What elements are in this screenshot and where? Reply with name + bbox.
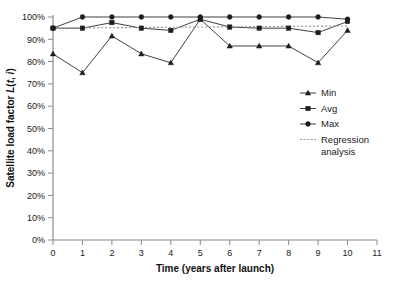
x-tick-label: 1 <box>80 248 85 258</box>
y-tick-label: 80% <box>27 57 45 67</box>
data-point-marker <box>198 15 203 20</box>
data-point-marker <box>286 26 290 30</box>
y-tick-label: 10% <box>27 213 45 223</box>
data-point-marker <box>51 26 56 31</box>
data-point-marker <box>257 15 262 20</box>
chart-figure: 0%10%20%30%40%50%60%70%80%90%100% 012345… <box>0 0 396 290</box>
x-tick-label: 4 <box>168 248 173 258</box>
x-tick-label: 5 <box>198 248 203 258</box>
y-tick-label: 40% <box>27 146 45 156</box>
y-tick-label: 70% <box>27 79 45 89</box>
y-axis-title: Satellite load factor L(t, i) <box>5 68 16 188</box>
x-tick-label: 8 <box>286 248 291 258</box>
legend-label: Max <box>321 118 339 129</box>
svg-text:Satellite load factor L(t, i): Satellite load factor L(t, i) <box>5 68 16 188</box>
y-tick-label: 100% <box>22 12 45 22</box>
x-tick-label: 3 <box>139 248 144 258</box>
x-tick-label: 10 <box>343 248 353 258</box>
data-point-marker <box>80 26 84 30</box>
legend-label: Min <box>321 87 336 98</box>
data-point-marker <box>257 26 261 30</box>
data-point-marker <box>228 25 232 29</box>
x-axis-title: Time (years after launch) <box>156 263 274 274</box>
data-point-marker <box>286 15 291 20</box>
data-point-marker <box>306 122 311 127</box>
data-point-marker <box>80 15 85 20</box>
data-point-marker <box>316 15 321 20</box>
data-point-marker <box>227 15 232 20</box>
y-tick-label: 0% <box>32 235 45 245</box>
data-point-marker <box>139 15 144 20</box>
x-tick-label: 2 <box>109 248 114 258</box>
data-point-marker <box>345 17 350 22</box>
legend-label: Avg <box>321 103 337 114</box>
data-point-marker <box>139 26 143 30</box>
x-tick-label: 0 <box>50 248 55 258</box>
y-tick-label: 30% <box>27 168 45 178</box>
data-point-marker <box>306 106 310 110</box>
y-tick-label: 60% <box>27 101 45 111</box>
data-point-marker <box>110 15 115 20</box>
data-point-marker <box>169 28 173 32</box>
data-point-marker <box>316 30 320 34</box>
y-tick-label: 20% <box>27 191 45 201</box>
legend-label: Regression <box>321 134 369 145</box>
x-tick-label: 6 <box>227 248 232 258</box>
y-tick-label: 50% <box>27 124 45 134</box>
y-tick-label: 90% <box>27 35 45 45</box>
data-point-marker <box>110 20 114 24</box>
data-point-marker <box>168 15 173 20</box>
legend-label-line2: analysis <box>321 146 356 157</box>
x-tick-label: 11 <box>372 248 381 258</box>
x-tick-label: 9 <box>316 248 321 258</box>
x-tick-label: 7 <box>257 248 262 258</box>
